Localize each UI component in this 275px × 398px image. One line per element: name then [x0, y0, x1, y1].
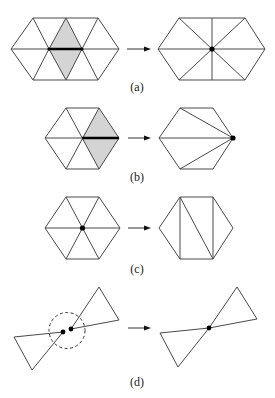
panel-a-after: [158, 18, 265, 80]
shaded-triangle: [82, 138, 119, 169]
panel-label-b: (b): [130, 170, 144, 184]
mesh-edge: [33, 18, 49, 49]
mesh-edge: [82, 18, 98, 49]
panel-label-c: (c): [130, 262, 143, 276]
merged-vertex: [230, 135, 235, 140]
panel-c: (c): [45, 197, 233, 276]
mesh-edge: [180, 197, 213, 259]
vertex-dot: [61, 330, 66, 335]
panel-d-before: [14, 287, 119, 370]
arrow-icon: [128, 136, 151, 141]
shaded-triangle: [49, 49, 82, 80]
panel-label-d: (d): [130, 375, 144, 389]
merged-vertex: [207, 326, 212, 331]
panel-c-before: [45, 197, 120, 259]
shaded-triangle: [82, 108, 119, 138]
arrow-icon: [127, 47, 151, 52]
vertex-dot: [47, 47, 50, 50]
triangle-right: [71, 287, 119, 329]
panel-a-before: [11, 18, 119, 80]
panel-b-before: [45, 108, 119, 169]
shaded-triangle: [49, 18, 82, 49]
panel-b-after: [159, 108, 236, 169]
arrow-icon: [128, 226, 151, 231]
panel-c-after: [159, 197, 233, 259]
mesh-edge: [180, 108, 233, 138]
panel-label-a: (a): [130, 80, 143, 94]
triangle-right: [209, 287, 257, 328]
mesh-edge: [33, 49, 49, 80]
vertex-dot: [80, 47, 83, 50]
triangle-left: [160, 328, 209, 367]
mesh-simplification-figure: (a) (b): [0, 0, 275, 398]
panel-a: (a): [11, 18, 265, 94]
removed-vertex: [80, 225, 85, 230]
panel-d: (d): [14, 287, 257, 389]
panel-b: (b): [45, 108, 236, 184]
mesh-edge: [180, 138, 233, 169]
mesh-edge: [82, 49, 98, 80]
merged-vertex: [209, 46, 214, 51]
triangle-left: [14, 332, 63, 370]
vertex-dot: [69, 327, 74, 332]
arrow-icon: [128, 326, 151, 331]
panel-d-after: [160, 287, 257, 367]
